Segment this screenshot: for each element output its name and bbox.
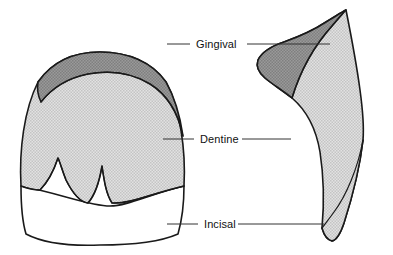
labial-incisal-region <box>21 186 184 245</box>
diagram-canvas: Gingival Dentine Incisal <box>0 0 393 255</box>
tooth-shade-diagram: Gingival Dentine Incisal <box>0 0 393 255</box>
region-labels: Gingival Dentine Incisal <box>196 38 239 230</box>
labial-view-tooth <box>21 52 185 245</box>
label-dentine: Dentine <box>200 133 239 145</box>
label-incisal: Incisal <box>204 218 236 230</box>
label-gingival: Gingival <box>196 38 237 50</box>
proximal-view-tooth <box>257 10 363 241</box>
